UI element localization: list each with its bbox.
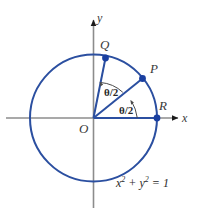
point-R-label: R xyxy=(159,99,167,112)
equation-value: 1 xyxy=(163,176,169,190)
y-axis-label: y xyxy=(97,12,102,24)
point-Q-marker xyxy=(102,55,109,62)
origin-label: O xyxy=(79,122,88,135)
circle-equation-label: x2 + y2 = 1 xyxy=(116,176,169,189)
angle-label-upper: θ/2 xyxy=(104,87,118,98)
point-Q-label: Q xyxy=(100,38,109,51)
point-P-marker xyxy=(139,75,146,82)
figure-canvas xyxy=(0,0,202,213)
equation-plus-operator: + xyxy=(128,176,136,190)
equation-equals-operator: = xyxy=(152,176,160,190)
angle-label-lower: θ/2 xyxy=(119,105,133,116)
equation-x-exponent: 2 xyxy=(121,175,125,184)
x-axis-label: x xyxy=(182,112,187,124)
unit-circle-figure: y x O Q P R θ/2 θ/2 x2 + y2 = 1 xyxy=(0,0,202,213)
point-P-label: P xyxy=(150,62,158,75)
equation-y-exponent: 2 xyxy=(145,175,149,184)
point-R-marker xyxy=(154,115,161,122)
